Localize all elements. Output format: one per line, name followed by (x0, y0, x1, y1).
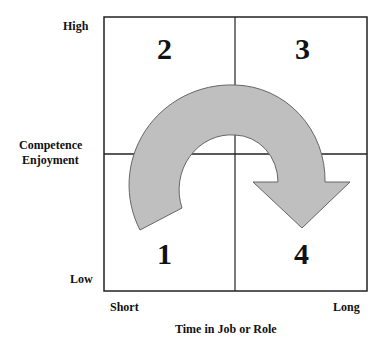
quadrant-label-1: 1 (157, 237, 172, 271)
quadrant-label-4: 4 (294, 237, 309, 271)
x-axis-title: Time in Job or Role (175, 322, 277, 337)
y-axis-title-line2: Enjoyment (22, 153, 79, 168)
quadrant-label-2: 2 (157, 32, 172, 66)
x-axis-short-label: Short (110, 300, 139, 315)
y-axis-low-label: Low (70, 272, 93, 287)
quadrant-label-3: 3 (295, 32, 310, 66)
x-axis-long-label: Long (333, 300, 360, 315)
cycle-arrow-icon (129, 85, 350, 230)
y-axis-high-label: High (63, 19, 88, 34)
quadrant-diagram (0, 0, 390, 345)
y-axis-title-line1: Competence (19, 138, 82, 153)
